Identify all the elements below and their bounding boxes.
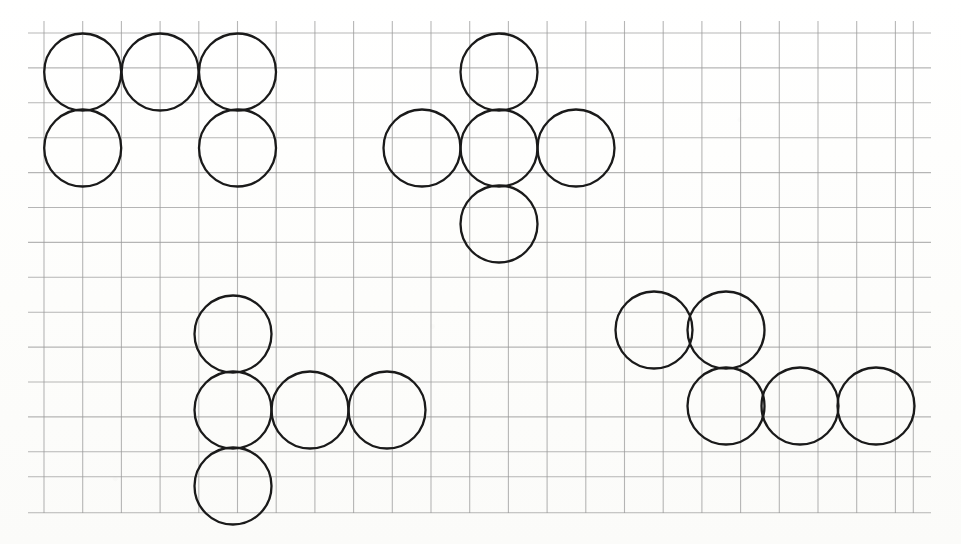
worksheet-canvas [0, 0, 961, 544]
graph-paper-grid [0, 0, 961, 544]
grid-vertical-lines [44, 21, 913, 513]
grid-horizontal-lines [28, 33, 931, 513]
